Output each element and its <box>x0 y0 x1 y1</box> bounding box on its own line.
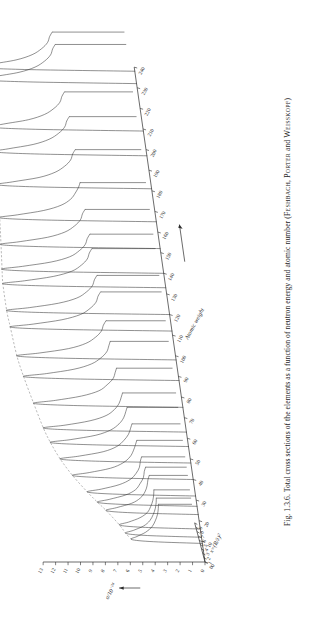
figure-caption-block: Fig. 1.3.6. Total cross sections of the … <box>262 0 314 623</box>
cross-section-curve <box>0 117 147 156</box>
sigma-tick-label: 9 <box>87 568 94 573</box>
atomic-weight-tick-label: 220 <box>143 107 152 117</box>
sigma-tick-label: 3 <box>161 568 168 573</box>
sigma-exponent: −24 <box>108 582 116 590</box>
atomic-weight-tick-label: 210 <box>146 127 155 137</box>
atomic-weight-tick-label: 180 <box>155 189 164 199</box>
atomic-weight-axis-label: Atomic weight <box>183 307 205 341</box>
curve-line <box>60 424 191 463</box>
sigma-tick-label: 5 <box>137 568 144 573</box>
curve-line <box>2 249 166 288</box>
curve-line <box>0 117 147 156</box>
atomic-weight-tick-label: 140 <box>166 272 175 282</box>
atomic-weight-arrow <box>179 225 184 262</box>
atomic-weight-arrowhead <box>178 225 182 229</box>
atomic-weight-tick-label: 30 <box>200 500 208 508</box>
curve-line <box>0 44 137 83</box>
cross-section-curve <box>33 368 183 407</box>
author-1: Feshbach <box>283 182 292 216</box>
curve-line <box>0 32 135 71</box>
atomic-weight-tick-label: 70 <box>188 417 196 425</box>
atomic-weight-tick-label: 110 <box>175 334 184 344</box>
atomic-weight-tick-label: 40 <box>197 479 205 487</box>
sigma-tick-label: 4 <box>149 568 156 573</box>
cross-section-curve <box>0 209 160 248</box>
cross-section-curve <box>2 249 166 288</box>
atomic-weight-tick-label: 230 <box>140 86 149 96</box>
sigma-tick-label: 7 <box>112 568 119 573</box>
curve-line <box>125 498 201 537</box>
curve-line <box>50 407 188 446</box>
curve-line <box>131 504 202 543</box>
cross-section-curve <box>0 92 143 131</box>
sigma-tick-label: 13 <box>36 567 44 575</box>
atomic-weight-tick-label: 90 <box>182 376 190 384</box>
curve-line <box>10 292 172 331</box>
sigma-axis-arrowhead <box>119 586 124 589</box>
cross-section-curve <box>0 44 137 83</box>
sigma-tick-label: 0 <box>199 568 206 573</box>
figure-caption: Fig. 1.3.6. Total cross sections of the … <box>277 12 299 612</box>
atomic-weight-tick-label: 50 <box>194 458 202 466</box>
atomic-weight-tick-label: 200 <box>149 148 158 158</box>
figure-page: 0123456789101112130123456789010203040506… <box>0 0 316 623</box>
curve-line <box>6 275 169 314</box>
figure-number: Fig. 1.3.6. <box>283 494 292 526</box>
cross-section-curve <box>125 498 201 537</box>
caption-authors: (Feshbach, Porter and Weisskopf) <box>283 97 292 218</box>
author-2: Porter <box>283 152 292 177</box>
sigma-tick-label: 6 <box>124 568 131 573</box>
curves-group <box>0 32 202 543</box>
curve-line <box>0 92 143 131</box>
caption-text: Total cross sections of the elements as … <box>283 220 292 492</box>
atomic-weight-tick-label: 130 <box>169 292 178 302</box>
cross-section-curve <box>23 341 179 380</box>
curve-line <box>33 368 183 407</box>
atomic-weight-tick-label: 170 <box>158 210 167 220</box>
atomic-weight-tick-label: 150 <box>164 251 173 261</box>
atomic-weight-tick-label: 160 <box>161 230 170 240</box>
atomic-weight-tick-label: 120 <box>172 313 181 323</box>
atomic-weight-tick-label: 190 <box>152 168 161 178</box>
sigma-tick-label: 1 <box>186 568 193 573</box>
curve-line <box>1 234 163 273</box>
curve-line <box>0 209 160 248</box>
cross-section-curve <box>1 234 163 273</box>
cross-section-curve <box>0 32 135 71</box>
sigma-axis-label: σ/10−24 <box>103 582 117 601</box>
sigma-tick-label: 10 <box>74 567 82 575</box>
atomic-weight-tick-label: 60 <box>191 438 199 446</box>
atomic-weight-tick-label: 20 <box>202 520 210 528</box>
sigma-tick-label: 8 <box>99 568 106 573</box>
cross-section-curve <box>10 292 172 331</box>
sigma-tick-label: 11 <box>61 567 69 575</box>
figure-plate: 0123456789101112130123456789010203040506… <box>0 0 262 623</box>
curve-line <box>23 341 179 380</box>
sigma-tick-label: 2 <box>174 568 181 573</box>
cross-section-curve <box>131 504 202 543</box>
cross-section-curve <box>16 321 176 360</box>
waterfall-plot: 0123456789101112130123456789010203040506… <box>0 0 262 623</box>
sigma-tick-label: 12 <box>49 567 57 575</box>
author-3: Weisskopf <box>283 100 292 137</box>
cross-section-curve <box>60 424 191 463</box>
cross-section-curve <box>6 275 169 314</box>
atomic-weight-tick-label: 80 <box>185 396 193 404</box>
cross-section-curve <box>50 407 188 446</box>
resonance-ridge-line <box>0 67 132 539</box>
atomic-weight-tick-label: 240 <box>137 65 146 75</box>
atomic-weight-tick-label: 100 <box>178 354 187 364</box>
curve-line <box>16 321 176 360</box>
